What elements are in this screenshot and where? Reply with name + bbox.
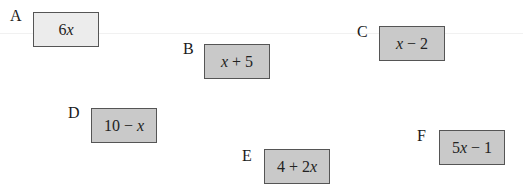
card-b[interactable]: x + 5	[204, 44, 270, 79]
card-b-label: B	[183, 41, 194, 57]
card-c-expression: x − 2	[396, 35, 428, 53]
card-c[interactable]: x − 2	[379, 26, 445, 61]
card-d-expression: 10 − x	[104, 117, 144, 135]
card-a[interactable]: 6x	[33, 12, 99, 47]
card-a-expression: 6x	[58, 21, 73, 39]
card-a-label: A	[10, 8, 22, 24]
card-f[interactable]: 5x − 1	[439, 130, 505, 165]
card-e-label: E	[242, 148, 252, 164]
card-c-label: C	[357, 24, 368, 40]
card-e[interactable]: 4 + 2x	[264, 149, 330, 184]
card-b-expression: x + 5	[221, 53, 253, 71]
card-d[interactable]: 10 − x	[91, 108, 157, 143]
card-e-expression: 4 + 2x	[277, 158, 317, 176]
card-f-expression: 5x − 1	[452, 139, 492, 157]
card-d-label: D	[68, 105, 80, 121]
card-f-label: F	[417, 128, 426, 144]
